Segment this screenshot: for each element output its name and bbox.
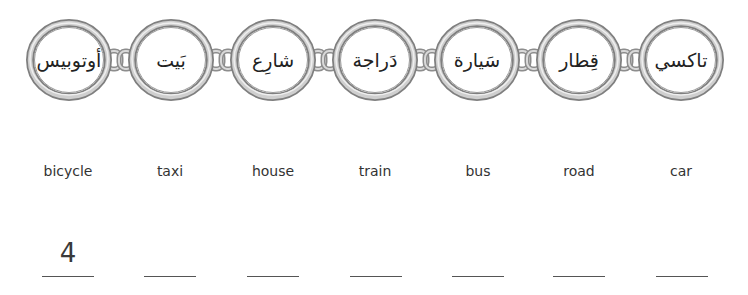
english-word-house: house [223,163,323,179]
ring-label-train-arabic: قِطار [539,44,619,76]
english-word-bicycle: bicycle [18,163,118,179]
answer-blank-road[interactable] [553,236,605,277]
ring-label-car-arabic: سَيارة [437,44,517,76]
english-word-taxi: taxi [120,163,220,179]
answer-blank-house[interactable] [247,236,299,277]
answer-blank-taxi[interactable] [144,236,196,277]
english-word-car: car [631,163,731,179]
english-word-train: train [325,163,425,179]
answer-value: 4 [60,238,77,268]
answer-blank-car[interactable] [656,236,708,277]
ring-label-taxi-arabic: تاكسي [641,44,721,76]
ring-label-bus-arabic: أوتوبيس [29,44,109,76]
answer-blank-bicycle[interactable]: 4 [42,236,94,277]
answer-blank-bus[interactable] [452,236,504,277]
english-word-road: road [529,163,629,179]
ring-label-road-arabic: شارِع [233,44,313,76]
english-word-bus: bus [428,163,528,179]
ring-label-bicycle-arabic: دَراجة [335,44,415,76]
answer-blank-train[interactable] [350,236,402,277]
ring-label-house-arabic: بَيت [131,44,211,76]
